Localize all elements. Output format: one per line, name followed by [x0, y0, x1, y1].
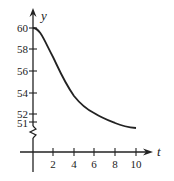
y-tick-label: 58 — [17, 43, 29, 55]
y-tick-label: 56 — [17, 65, 29, 77]
x-tick-label: 2 — [50, 158, 56, 170]
x-tick-label: 4 — [71, 158, 77, 170]
chart: 60 58 56 54 52 51 2 4 6 8 10 y t — [0, 0, 174, 181]
y-tick-label: 51 — [17, 117, 28, 129]
y-axis-label: y — [39, 8, 47, 23]
data-curve — [33, 28, 136, 128]
y-tick-label: 54 — [17, 87, 29, 99]
y-tick-label: 60 — [17, 22, 29, 34]
x-tick-label: 10 — [131, 158, 143, 170]
x-axis-label: t — [157, 144, 161, 159]
x-tick-label: 8 — [112, 158, 118, 170]
x-tick-label: 6 — [91, 158, 97, 170]
